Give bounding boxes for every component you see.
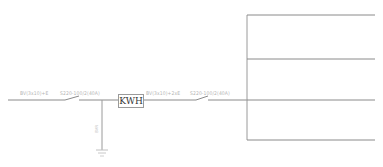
ground-label: BVR xyxy=(94,125,99,133)
main-breaker-switch-icon xyxy=(65,96,79,100)
main-breaker-label: S220-100/2(40A) xyxy=(60,90,100,96)
distribution-panel xyxy=(247,15,375,140)
outgoing-breaker-label: S220-100/2(40A) xyxy=(190,90,230,96)
single-line-diagram xyxy=(0,0,383,167)
kwh-meter: KWH xyxy=(118,94,144,108)
outgoing-breaker-switch-icon xyxy=(196,96,208,100)
ground-icon xyxy=(96,150,108,156)
incoming-cable-label: BV(3x10)+E xyxy=(20,90,48,96)
meter-cable-label: BV(3x10)+2xE xyxy=(146,90,180,96)
